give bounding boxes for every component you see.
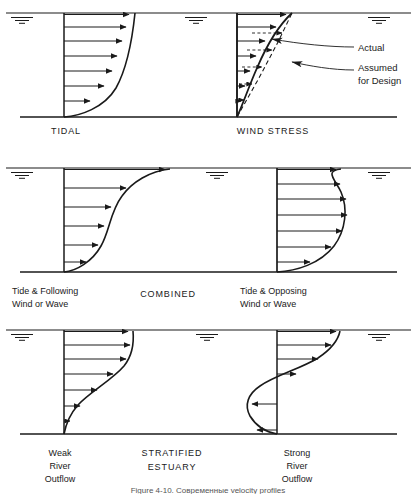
water-surface-marker-icon [368,173,390,179]
velocity-arrows-reversed [252,404,277,430]
group-title-stratified-line1: STRATIFIED [142,448,203,458]
case-label-weak-line1: Weak [49,448,72,458]
annotation-label-actual: Actual [358,42,384,53]
velocity-profile-curve [64,169,170,272]
leader-line-actual [272,39,354,47]
group-title-stratified-line2: ESTUARY [148,462,197,472]
water-surface-marker-icon [11,173,33,179]
assumed-velocity-arrows [237,33,282,100]
annotation-leaders [272,39,354,70]
group-title-combined: COMBINED [140,289,196,299]
leader-line-assumed [292,62,354,70]
annotation-label-assumed-line2: for Design [358,75,401,86]
velocity-profile-curve [247,331,340,434]
case-label-weak-line2: River [49,461,70,471]
panel-stratified: Weak River Outflow STRATIFIED ESTUARY St… [6,330,411,484]
velocity-profile-curve [64,331,133,434]
water-surface-marker-icon [11,18,33,24]
case-strong-river-outflow: Strong River Outflow [247,330,340,484]
case-label-tide-opposing-line1: Tide & Opposing [240,286,307,296]
figure-caption: Figure 4-10. Современные velocity profil… [131,486,286,494]
case-label-tide-following-line1: Tide & Following [12,286,78,296]
case-weak-river-outflow: Weak River Outflow [45,330,133,484]
case-title-wind-stress: WIND STRESS [237,126,309,136]
figure-canvas: TIDAL [0,0,417,494]
velocity-profile-figure: TIDAL [0,0,417,494]
case-label-strong-line2: River [286,461,307,471]
panel-combined: Tide & Following Wind or Wave COMBINED T… [6,168,411,309]
annotation-label-assumed-line1: Assumed [358,62,398,73]
water-surface-marker-icon [11,335,33,341]
case-title-tidal: TIDAL [51,126,81,136]
case-tide-following: Tide & Following Wind or Wave [12,168,170,309]
assumed-design-profile-curve [237,13,292,117]
velocity-arrows [64,170,165,263]
water-surface-marker-icon [196,335,218,341]
case-label-weak-line3: Outflow [45,474,76,484]
case-tide-opposing: Tide & Opposing Wind or Wave [240,168,347,309]
water-surface-marker-icon [185,18,207,24]
water-surface-marker-icon [368,18,390,24]
velocity-arrows-forward [277,332,336,375]
case-label-tide-following-line2: Wind or Wave [12,299,68,309]
case-label-tide-opposing-line2: Wind or Wave [240,299,296,309]
velocity-arrows [64,15,129,102]
case-label-strong-line1: Strong [284,448,311,458]
water-surface-marker-icon [368,335,390,341]
velocity-arrows [64,332,130,422]
case-label-strong-line3: Outflow [282,474,313,484]
water-surface-marker-icon [206,173,228,179]
panel-tidal: TIDAL [6,13,411,136]
